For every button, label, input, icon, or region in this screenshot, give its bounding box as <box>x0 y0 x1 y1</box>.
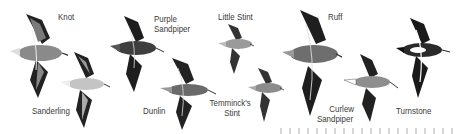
label-ruff: Ruff <box>328 12 342 23</box>
dunlin-illustration <box>158 56 216 132</box>
label-curlew-sandpiper-line2: Sandpiper <box>317 114 353 125</box>
label-dunlin: Dunlin <box>143 106 165 117</box>
label-little-stint: Little Stint <box>218 12 253 23</box>
temmincks-stint-illustration <box>248 66 284 124</box>
label-temmincks-stint-line2: Stint <box>224 108 240 119</box>
label-knot: Knot <box>58 12 74 23</box>
label-sanderling: Sanderling <box>32 106 70 117</box>
sanderling-illustration <box>58 50 110 130</box>
label-purple-sandpiper-line2: Sandpiper <box>154 24 190 35</box>
label-turnstone: Turnstone <box>396 106 431 117</box>
wader-flight-plate: Knot Sanderling Purple Sandpiper Dunlin <box>0 0 461 134</box>
ruff-illustration <box>282 8 342 118</box>
cropped-caption-text <box>280 128 460 134</box>
turnstone-illustration <box>394 16 450 100</box>
